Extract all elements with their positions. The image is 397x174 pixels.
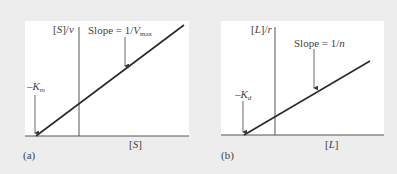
panel-a-regression-line	[36, 25, 184, 136]
panel-a-axes	[25, 27, 189, 136]
panel-b-regression-line	[244, 61, 370, 135]
panel-a-x-axis-label: [S]	[129, 138, 142, 150]
panel-a-slope-label: Slope = 1/Vmax	[88, 24, 152, 38]
panel-b-x-axis-label: [L]	[325, 138, 338, 150]
panel-a-tag: (a)	[23, 149, 35, 161]
panel-b-intercept-label: –Kd	[235, 88, 251, 102]
panel-b-tag: (b)	[221, 149, 234, 161]
panel-a-y-axis-label: [S]/v	[53, 23, 74, 35]
panel-b-slope-label: Slope = 1/n	[294, 37, 345, 49]
panel-a-intercept-label: –Km	[27, 80, 45, 94]
panel-b-y-axis-label: [L]/r	[251, 23, 272, 35]
